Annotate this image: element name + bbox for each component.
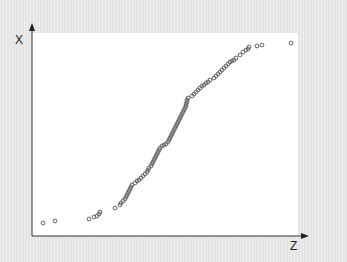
data-points — [41, 41, 293, 225]
y-axis-label: X — [15, 33, 23, 47]
data-point — [53, 219, 57, 223]
axes — [29, 23, 309, 239]
x-axis-arrow-icon — [301, 233, 309, 239]
data-point — [113, 206, 117, 210]
data-point — [87, 217, 91, 221]
data-point — [260, 43, 264, 47]
data-point — [41, 221, 45, 225]
data-point — [255, 44, 259, 48]
data-point — [238, 53, 242, 57]
scatter-chart — [0, 0, 347, 262]
data-point — [289, 41, 293, 45]
x-axis-label: Z — [290, 239, 297, 253]
y-axis-arrow-icon — [29, 23, 35, 31]
